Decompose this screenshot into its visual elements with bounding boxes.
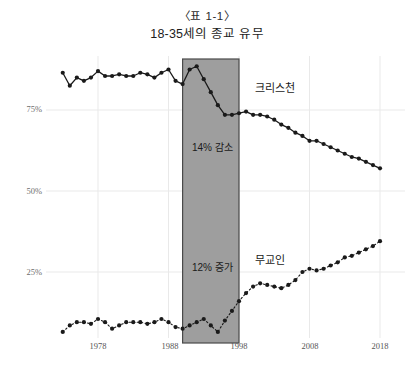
x-tick-2008: 2008	[290, 341, 330, 351]
y-tick-50: 50%	[8, 186, 42, 196]
x-tick-2018: 2018	[360, 341, 400, 351]
plot-area: 75% 50% 25% 1978 1988 1998 2008 2018 크리스…	[0, 0, 414, 377]
series-label-nonreligious: 무교인	[255, 251, 285, 267]
chart-figure: 〈표 1-1〉 18-35세의 종교 유무 75% 50% 25% 1978 1…	[0, 0, 414, 377]
annotation-decrease: 14% 감소	[192, 139, 233, 154]
y-tick-75: 75%	[8, 104, 42, 114]
chart-canvas	[0, 0, 414, 377]
series-label-christian: 크리스천	[255, 79, 295, 95]
x-tick-1988: 1988	[150, 341, 190, 351]
x-tick-1978: 1978	[78, 341, 118, 351]
x-tick-1998: 1998	[219, 341, 259, 351]
y-tick-25: 25%	[8, 267, 42, 277]
annotation-increase: 12% 증가	[192, 259, 233, 274]
